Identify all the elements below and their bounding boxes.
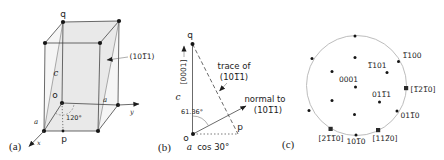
direction-1120-label: [112̅0] — [373, 134, 398, 143]
pole-0111-label: 011̅1 — [372, 90, 391, 99]
plane-1011-label: (101̅1) — [130, 52, 155, 61]
direction-1120-square — [376, 128, 380, 132]
base-length-label: a cos 30° — [187, 135, 230, 154]
pole-1100-dot — [397, 60, 400, 63]
crystallography-figure: q o p 120° (101̅1) a a c x y (a) q o p [… — [0, 0, 444, 160]
pole-1101-dot — [386, 71, 389, 74]
y-axis-label: y — [129, 108, 134, 116]
normal-plane-label: (101̅1) — [254, 105, 282, 115]
panel-a-letter: (a) — [9, 140, 22, 153]
direction-2110-label: [21̅1̅0] — [319, 134, 344, 143]
edge-c-label: c — [175, 92, 180, 102]
trace-of-label: trace of — [218, 61, 252, 71]
pole-0111-dot — [378, 101, 381, 104]
figure-canvas: q o p 120° (101̅1) a a c x y (a) q o p [… — [0, 0, 444, 160]
pole-0001-label: 0001 — [339, 75, 358, 84]
angle-120-label: 120° — [66, 114, 82, 122]
q-point-dot — [191, 42, 195, 46]
panel-a-unit-cell: q o p 120° (101̅1) a a c x y (a) — [9, 9, 155, 153]
panel-c-letter: (c) — [282, 138, 295, 151]
edge-a-right-label: a — [103, 96, 107, 104]
pole-0110-dot — [396, 110, 399, 113]
vertex-q-label: q — [187, 30, 193, 40]
edge-c-label: c — [54, 68, 59, 78]
pole-0110-label: 011̅0 — [401, 111, 420, 120]
x-axis-label: x — [37, 139, 41, 147]
trace-plane-label: (101̅1) — [220, 72, 248, 82]
point-p-label: p — [237, 122, 243, 132]
direction-1210-square — [404, 86, 408, 90]
point-p-label: p — [61, 134, 67, 144]
a2-axis-arrow — [118, 104, 139, 105]
panel-c-stereographic-projection: 1̅100 1̅101 0001 [1̅21̅0] 011̅1 011̅0 [1… — [282, 35, 436, 152]
angle-6136-label: 61.36° — [181, 108, 203, 116]
pole-0001-dot — [354, 86, 357, 89]
direction-1210-label: [1̅21̅0] — [411, 85, 436, 94]
panel-b-letter: (b) — [158, 141, 171, 154]
pole-1101-label: 1̅101 — [367, 61, 386, 70]
pole-1100-label: 1̅100 — [403, 51, 422, 60]
vertex-q-label: q — [60, 9, 66, 19]
edge-a-left-label: a — [34, 118, 38, 126]
trace-line — [193, 44, 239, 134]
pole-1010-label: 101̅0 — [346, 137, 365, 146]
panel-b-trace-normal: q o p [0001] c 61.36° trace of (101̅1) n… — [158, 30, 286, 154]
direction-2110-square — [329, 127, 333, 131]
origin-o-label: o — [52, 90, 58, 100]
projection-circle — [307, 36, 407, 136]
direction-0001-label: [0001] — [179, 59, 188, 84]
angle-6136-arc — [193, 116, 209, 125]
trace-label-leader-arrow — [220, 83, 228, 91]
rim-direction-squares — [329, 86, 409, 132]
normal-to-label: normal to — [244, 94, 285, 104]
